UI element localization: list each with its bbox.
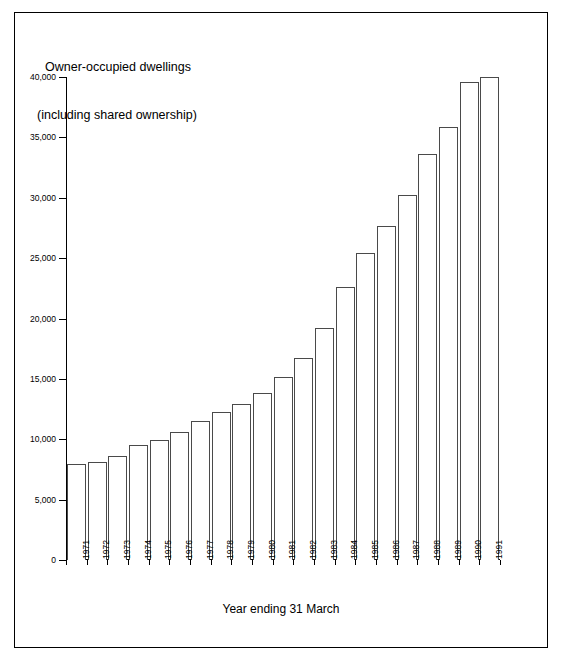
bar bbox=[398, 195, 417, 560]
x-tick-label: 1980 bbox=[267, 540, 277, 559]
x-tick-mark bbox=[397, 560, 398, 565]
x-tick-label: 1973 bbox=[122, 540, 132, 559]
bar bbox=[294, 358, 313, 560]
y-tick-mark bbox=[59, 198, 66, 199]
y-tick-label: 35,000 bbox=[30, 132, 56, 142]
y-tick-mark bbox=[59, 137, 66, 138]
bar bbox=[460, 82, 479, 560]
y-tick-mark bbox=[59, 319, 66, 320]
bar bbox=[253, 393, 272, 560]
x-tick-label: 1982 bbox=[308, 540, 318, 559]
x-tick-mark bbox=[66, 560, 67, 565]
chart-title-line-1: Owner-occupied dwellings bbox=[37, 59, 197, 75]
x-tick-mark bbox=[293, 560, 294, 565]
x-tick-mark bbox=[107, 560, 108, 565]
x-tick-mark bbox=[376, 560, 377, 565]
x-tick-mark bbox=[355, 560, 356, 565]
x-tick-label: 1977 bbox=[205, 540, 215, 559]
y-tick-mark bbox=[59, 77, 66, 78]
bar bbox=[418, 154, 437, 560]
x-tick-label: 1976 bbox=[184, 540, 194, 559]
bar bbox=[439, 127, 458, 560]
y-tick-label: 30,000 bbox=[30, 193, 56, 203]
y-tick-mark bbox=[59, 258, 66, 259]
x-tick-mark bbox=[273, 560, 274, 565]
x-tick-label: 1983 bbox=[329, 540, 339, 559]
plot-area: 05,00010,00015,00020,00025,00030,00035,0… bbox=[66, 77, 500, 560]
x-axis-title: Year ending 31 March bbox=[15, 602, 547, 616]
x-tick-mark bbox=[252, 560, 253, 565]
x-tick-mark bbox=[211, 560, 212, 565]
bar bbox=[480, 77, 499, 560]
y-tick-label: 5,000 bbox=[35, 495, 56, 505]
x-tick-label: 1974 bbox=[143, 540, 153, 559]
x-tick-mark bbox=[128, 560, 129, 565]
y-tick-mark bbox=[59, 500, 66, 501]
x-tick-label: 1986 bbox=[391, 540, 401, 559]
bar bbox=[336, 287, 355, 560]
bar bbox=[356, 253, 375, 560]
y-tick-label: 15,000 bbox=[30, 374, 56, 384]
x-tick-mark bbox=[169, 560, 170, 565]
x-tick-label: 1987 bbox=[411, 540, 421, 559]
x-tick-mark bbox=[417, 560, 418, 565]
x-tick-label: 1975 bbox=[163, 540, 173, 559]
x-tick-mark bbox=[479, 560, 480, 565]
y-tick-label: 10,000 bbox=[30, 434, 56, 444]
bar bbox=[315, 328, 334, 560]
x-tick-mark bbox=[314, 560, 315, 565]
y-tick-mark bbox=[59, 439, 66, 440]
x-tick-label: 1991 bbox=[494, 540, 504, 559]
x-tick-mark bbox=[149, 560, 150, 565]
x-tick-label: 1984 bbox=[349, 540, 359, 559]
x-tick-mark bbox=[335, 560, 336, 565]
bar bbox=[232, 404, 251, 560]
y-tick-label: 20,000 bbox=[30, 314, 56, 324]
bar bbox=[212, 412, 231, 560]
x-tick-label: 1979 bbox=[246, 540, 256, 559]
x-tick-label: 1972 bbox=[101, 540, 111, 559]
x-tick-label: 1990 bbox=[473, 540, 483, 559]
y-tick-label: 0 bbox=[51, 555, 56, 565]
x-tick-mark bbox=[438, 560, 439, 565]
x-tick-mark bbox=[500, 560, 501, 565]
figure-frame: Owner-occupied dwellings (including shar… bbox=[14, 12, 548, 648]
y-tick-label: 40,000 bbox=[30, 72, 56, 82]
x-tick-label: 1971 bbox=[81, 540, 91, 559]
y-tick-label: 25,000 bbox=[30, 253, 56, 263]
y-tick-mark bbox=[59, 379, 66, 380]
x-tick-mark bbox=[231, 560, 232, 565]
x-tick-mark bbox=[87, 560, 88, 565]
x-tick-label: 1988 bbox=[432, 540, 442, 559]
y-tick-mark bbox=[59, 560, 66, 561]
x-tick-label: 1981 bbox=[287, 540, 297, 559]
x-tick-mark bbox=[190, 560, 191, 565]
x-tick-label: 1989 bbox=[453, 540, 463, 559]
x-tick-mark bbox=[459, 560, 460, 565]
x-tick-label: 1985 bbox=[370, 540, 380, 559]
x-tick-label: 1978 bbox=[225, 540, 235, 559]
bar bbox=[274, 377, 293, 560]
bar bbox=[377, 226, 396, 560]
